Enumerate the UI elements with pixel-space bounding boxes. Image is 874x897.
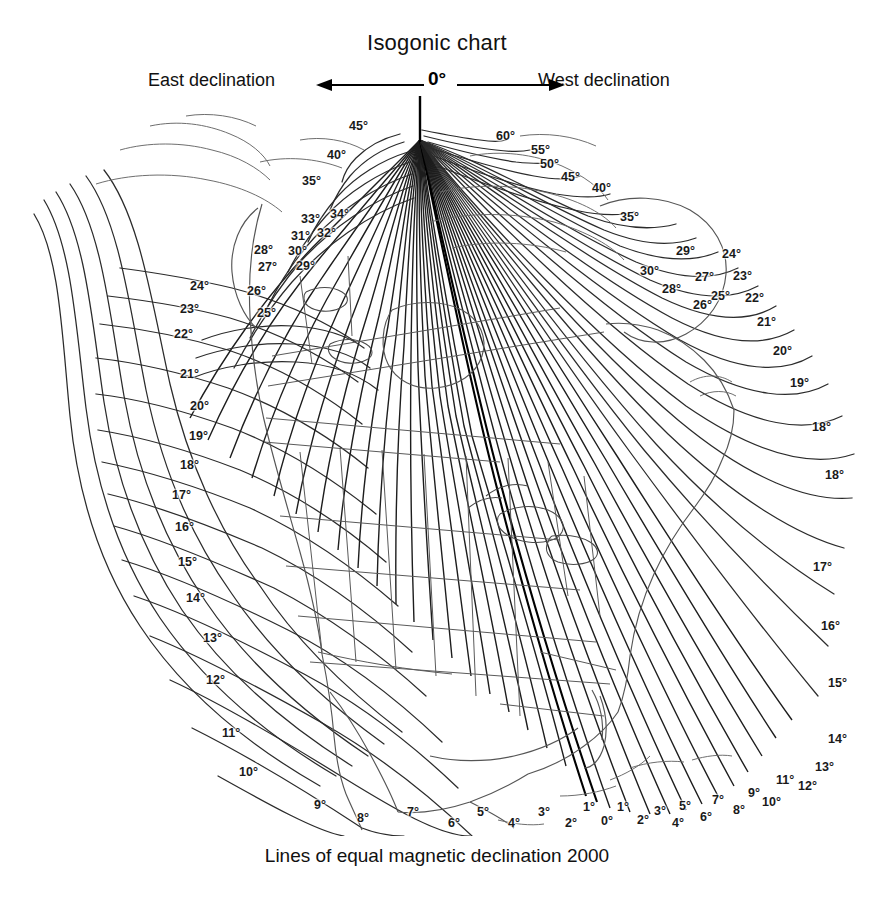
declination-label: 24°	[722, 248, 741, 261]
declination-label: 29°	[676, 245, 695, 258]
declination-label: 8°	[357, 812, 369, 825]
declination-label: 21°	[757, 316, 776, 329]
declination-label: 2°	[637, 814, 649, 827]
declination-label: 16°	[821, 620, 840, 633]
isogonic-chart-page: Isogonic chart East declination 0° West …	[0, 0, 874, 897]
declination-label: 2°	[565, 817, 577, 830]
declination-label: 20°	[190, 400, 209, 413]
declination-label: 55°	[531, 144, 550, 157]
isogonic-map: 45°40°35°33°34°31°32°30°29°28°27°26°25°2…	[0, 96, 874, 836]
declination-label: 23°	[733, 270, 752, 283]
page-title: Isogonic chart	[0, 30, 874, 56]
declination-label: 0°	[601, 815, 613, 828]
declination-label: 13°	[815, 761, 834, 774]
declination-label: 7°	[712, 794, 724, 807]
isogonic-lines-west	[420, 130, 854, 814]
declination-label: 1°	[617, 801, 629, 814]
declination-label: 10°	[762, 796, 781, 809]
declination-label: 45°	[349, 120, 368, 133]
declination-label: 26°	[247, 285, 266, 298]
declination-label: 1°	[583, 801, 595, 814]
declination-label: 22°	[745, 292, 764, 305]
declination-label: 11°	[222, 727, 240, 740]
declination-label: 7°	[407, 806, 419, 819]
declination-label: 28°	[254, 244, 273, 257]
declination-label: 8°	[733, 804, 745, 817]
declination-label: 10°	[239, 766, 258, 779]
declination-label: 14°	[186, 592, 205, 605]
declination-label: 11°	[776, 774, 794, 787]
declination-label: 18°	[180, 459, 199, 472]
declination-label: 6°	[700, 811, 712, 824]
declination-label: 5°	[679, 800, 691, 813]
declination-label: 4°	[672, 817, 684, 830]
declination-label: 3°	[654, 805, 666, 818]
declination-label: 16°	[175, 521, 194, 534]
declination-label: 15°	[178, 556, 197, 569]
declination-label: 50°	[540, 158, 559, 171]
declination-label: 25°	[257, 307, 276, 320]
declination-label: 19°	[790, 377, 809, 390]
zero-declination-label: 0°	[0, 68, 874, 90]
declination-label: 15°	[828, 677, 847, 690]
declination-label: 4°	[508, 817, 520, 830]
declination-label: 12°	[206, 674, 225, 687]
declination-label: 18°	[812, 421, 831, 434]
map-outlines	[96, 114, 736, 830]
declination-label: 3°	[538, 806, 550, 819]
chart-caption: Lines of equal magnetic declination 2000	[0, 845, 874, 867]
declination-label: 35°	[302, 175, 321, 188]
declination-label: 30°	[288, 245, 307, 258]
declination-label: 12°	[798, 780, 817, 793]
declination-label: 28°	[662, 283, 681, 296]
declination-label: 21°	[180, 368, 199, 381]
declination-label: 25°	[711, 290, 730, 303]
declination-label: 35°	[620, 211, 639, 224]
declination-label: 60°	[496, 130, 515, 143]
declination-label: 18°	[825, 469, 844, 482]
declination-label: 40°	[592, 182, 611, 195]
declination-label: 33°	[301, 213, 320, 226]
declination-label: 27°	[258, 261, 277, 274]
declination-label: 9°	[314, 799, 326, 812]
declination-label: 32°	[317, 227, 336, 240]
declination-label: 6°	[448, 817, 460, 830]
map-svg	[0, 96, 874, 836]
declination-label: 26°	[693, 299, 712, 312]
declination-label: 19°	[189, 430, 208, 443]
arrow-left-icon	[316, 76, 426, 94]
declination-label: 31°	[291, 230, 310, 243]
declination-label: 20°	[773, 345, 792, 358]
declination-label: 17°	[813, 561, 832, 574]
declination-label: 34°	[330, 208, 349, 221]
declination-label: 30°	[640, 265, 659, 278]
declination-label: 22°	[174, 328, 193, 341]
declination-label: 29°	[296, 260, 315, 273]
declination-label: 13°	[203, 632, 222, 645]
declination-label: 27°	[695, 271, 714, 284]
declination-label: 40°	[327, 149, 346, 162]
declination-label: 23°	[180, 303, 199, 316]
declination-label: 5°	[477, 806, 489, 819]
declination-label: 45°	[561, 171, 580, 184]
declination-label: 17°	[172, 489, 191, 502]
arrow-right-icon	[455, 76, 565, 94]
declination-label: 14°	[828, 733, 847, 746]
declination-label: 9°	[748, 787, 760, 800]
declination-label: 24°	[190, 280, 209, 293]
